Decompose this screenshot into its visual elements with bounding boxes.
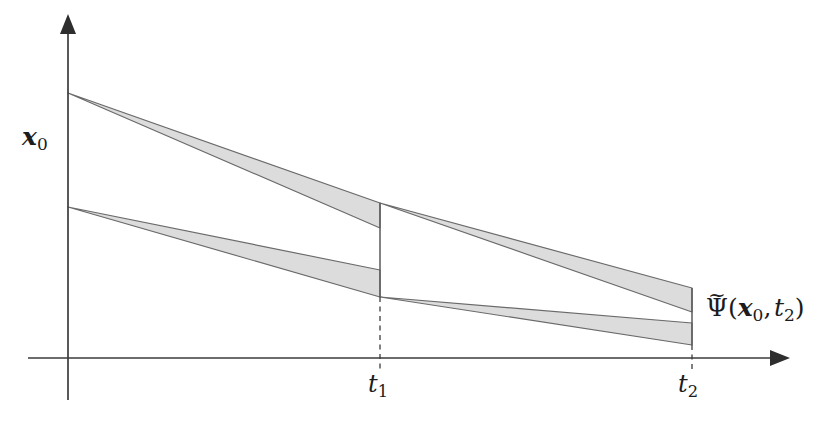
- band-upper-segment-1: [68, 93, 380, 228]
- psi-with-tilde: ~Ψ: [706, 295, 728, 320]
- y-axis-label-x0: x0: [22, 124, 48, 153]
- t2-base: t: [678, 370, 688, 398]
- psi-arg-x-base: x: [738, 293, 753, 322]
- t2-subscript: 2: [688, 382, 698, 401]
- diagram-canvas: [0, 0, 828, 422]
- x0-base: x: [22, 122, 37, 151]
- reachable-set-label: ~Ψ(x0, t2): [706, 295, 805, 324]
- psi-arg-x-subscript: 0: [753, 305, 764, 325]
- psi-open-paren: (: [728, 293, 738, 322]
- x0-subscript: 0: [37, 134, 48, 154]
- psi-arg-t-subscript: 2: [784, 305, 795, 325]
- figure-root: x0 t1 t2 ~Ψ(x0, t2): [0, 0, 828, 422]
- t1-base: t: [368, 370, 378, 398]
- x-axis-tick-label-t2: t2: [678, 372, 698, 400]
- band-lower-segment-1: [68, 207, 380, 297]
- psi-arg-t-base: t: [774, 293, 784, 322]
- band-lower-segment-2: [380, 297, 692, 345]
- x-axis-arrow-icon: [770, 350, 790, 366]
- band-upper-segment-2: [380, 203, 692, 312]
- tilde-accent-icon: ~: [708, 284, 726, 305]
- psi-close-paren: ): [795, 293, 805, 322]
- psi-arg-comma: ,: [763, 293, 773, 322]
- y-axis-arrow-icon: [60, 14, 76, 34]
- x-axis-tick-label-t1: t1: [368, 372, 388, 400]
- t1-subscript: 1: [378, 382, 388, 401]
